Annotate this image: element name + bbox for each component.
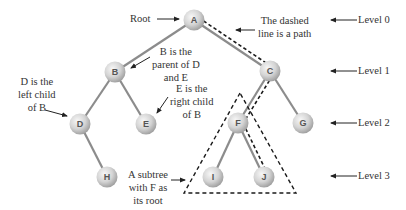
path-segment-A-C [204, 21, 266, 63]
node-label: D [77, 119, 84, 129]
left-child-annotation-line: left child [18, 88, 56, 101]
level-2-text: Level 2 [358, 117, 390, 128]
node-label: G [299, 118, 306, 128]
parent-annotation-line: B is the [152, 45, 200, 58]
node-label: F [235, 118, 241, 128]
node-label: B [112, 67, 119, 77]
subtree-annotation-line: A subtree [128, 168, 168, 181]
right-child-arrow-icon [157, 97, 168, 113]
node-C: C [260, 61, 281, 82]
path-segment-C-F [246, 81, 269, 119]
node-label: A [191, 15, 198, 25]
parent-annotation: B is the parent of D and E [152, 45, 200, 84]
node-H: H [97, 167, 118, 188]
path-annotation-line: The dashed [258, 14, 311, 27]
right-child-annotation-line: right child [170, 95, 213, 108]
node-A: A [184, 10, 205, 31]
level-2-label: Level 2 [358, 116, 390, 129]
node-J: J [254, 167, 275, 188]
level-1-label: Level 1 [358, 64, 390, 77]
path-annotation-line: line is a path [258, 27, 311, 40]
subtree-annotation: A subtree with F as its root [128, 168, 168, 207]
left-child-annotation: D is the left child of B [18, 75, 56, 114]
root-label: Root [130, 12, 150, 25]
parent-annotation-line: parent of D [152, 58, 200, 71]
level-1-text: Level 1 [358, 65, 390, 76]
node-label: I [212, 172, 215, 182]
path-annotation: The dashed line is a path [258, 14, 311, 40]
level-0-text: Level 0 [358, 14, 390, 25]
subtree-annotation-line: with F as [128, 181, 168, 194]
subtree-annotation-line: its root [128, 194, 168, 207]
right-child-annotation-line: of B [170, 108, 213, 121]
node-D: D [70, 114, 91, 135]
node-I: I [203, 167, 224, 188]
root-label-text: Root [130, 13, 150, 24]
level-0-label: Level 0 [358, 13, 390, 26]
left-child-annotation-line: D is the [18, 75, 56, 88]
node-E: E [136, 114, 157, 135]
node-label: E [143, 119, 149, 129]
left-child-annotation-line: of B [18, 101, 56, 114]
level-3-label: Level 3 [358, 169, 390, 182]
node-label: H [104, 172, 111, 182]
right-child-annotation-line: E is the [170, 82, 213, 95]
path-segment-F-J [246, 129, 265, 168]
right-child-annotation: E is the right child of B [170, 82, 213, 121]
node-G: G [293, 113, 314, 134]
node-B: B [105, 62, 126, 83]
node-label: J [261, 172, 266, 182]
node-F: F [228, 113, 249, 134]
level-3-text: Level 3 [358, 170, 390, 181]
node-label: C [267, 66, 274, 76]
